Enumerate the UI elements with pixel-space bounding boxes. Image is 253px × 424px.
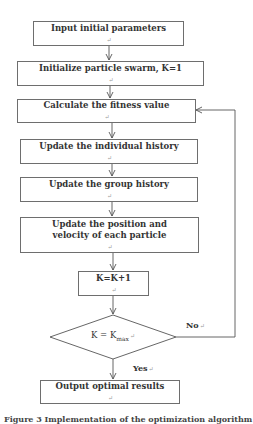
decision-subscript: max (116, 335, 129, 342)
step-initialize-swarm: Initialize particle swarm, K=1↵ (17, 61, 204, 86)
paragraph-mark-icon: ↵ (52, 34, 166, 45)
step-update-group-history: Update the group history↵ (20, 177, 198, 202)
paragraph-mark-icon: ↵ (97, 284, 131, 295)
step-label: Calculate the fitness value (44, 100, 170, 111)
no-text: No (186, 320, 199, 330)
step-update-position-velocity: Update the position and velocity of each… (20, 217, 199, 253)
step-label: K=K+1 (96, 273, 131, 284)
no-branch-label: No↵ (186, 320, 205, 330)
decision-k-equals-kmax: K = Kmax↵ (70, 330, 156, 342)
decision-lhs: K = K (91, 330, 116, 340)
paragraph-mark-icon: ↵ (149, 365, 154, 372)
paragraph-mark-icon: ↵ (130, 332, 135, 339)
paragraph-mark-icon: ↵ (200, 322, 205, 329)
paragraph-mark-icon: ↵ (40, 152, 178, 163)
step-update-individual-history: Update the individual history↵ (20, 139, 198, 164)
step-label: Update the group history (49, 179, 169, 190)
yes-branch-label: Yes↵ (133, 363, 154, 373)
paragraph-mark-icon: ↵ (40, 74, 182, 85)
step-label: Input initial parameters (51, 23, 166, 34)
step-output-results: Output optimal results↵ (40, 380, 180, 404)
paragraph-mark-icon: ↵ (57, 392, 165, 403)
paragraph-mark-icon: ↵ (50, 190, 169, 201)
step-label: Output optimal results (56, 381, 165, 392)
step-increment-k: K=K+1↵ (78, 271, 149, 296)
yes-text: Yes (133, 363, 148, 373)
step-input-parameters: Input initial parameters↵ (33, 21, 184, 46)
step-calculate-fitness: Calculate the fitness value↵ (17, 99, 196, 123)
paragraph-mark-icon: ↵ (45, 111, 170, 122)
paragraph-mark-icon: ↵ (42, 241, 178, 252)
step-label: Update the individual history (39, 141, 178, 152)
step-label: Initialize particle swarm, K=1 (39, 63, 182, 74)
step-label: Update the position and velocity of each… (41, 219, 178, 241)
figure-caption: Figure 3 Implementation of the optimizat… (4, 414, 248, 424)
